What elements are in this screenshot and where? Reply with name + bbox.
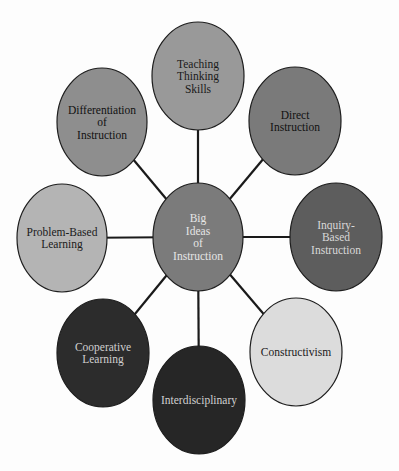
node-label: Learning <box>82 353 124 366</box>
node-label: Interdisciplinary <box>161 394 237 407</box>
concept-map-diagram: TeachingThinkingSkillsDirectInstructionI… <box>0 0 399 471</box>
node-problem-based-learning: Problem-BasedLearning <box>17 184 107 292</box>
node-label: Big <box>190 212 207 225</box>
center-node-big-ideas: BigIdeasofInstruction <box>153 183 243 291</box>
node-constructivism: Constructivism <box>250 298 342 406</box>
node-label: Instruction <box>173 250 223 262</box>
node-label: Inquiry- <box>317 219 355 232</box>
node-label: Constructivism <box>261 346 331 358</box>
node-label: Teaching <box>177 58 219 71</box>
node-inquiry-based-instruction: Inquiry-BasedInstruction <box>290 183 382 291</box>
node-teaching-thinking-skills: TeachingThinkingSkills <box>152 22 244 130</box>
node-label: Direct <box>281 109 311 121</box>
node-label: Cooperative <box>75 341 131 354</box>
node-direct-instruction: DirectInstruction <box>249 67 341 175</box>
node-label: Instruction <box>77 129 127 141</box>
node-label: of <box>193 237 203 249</box>
node-label: Skills <box>185 83 212 95</box>
node-label: Ideas <box>186 225 211 237</box>
node-label: of <box>97 116 107 128</box>
node-label: Differentiation <box>68 104 136 116</box>
node-label: Thinking <box>177 70 219 83</box>
node-interdisciplinary: Interdisciplinary <box>153 346 245 454</box>
concept-nodes: TeachingThinkingSkillsDirectInstructionI… <box>17 22 382 454</box>
node-cooperative-learning: CooperativeLearning <box>57 299 149 407</box>
node-label: Instruction <box>270 121 320 133</box>
node-label: Instruction <box>311 244 361 256</box>
node-label: Based <box>322 231 350 243</box>
node-label: Problem-Based <box>27 226 98 238</box>
node-label: Learning <box>41 238 83 251</box>
node-differentiation-of-instruction: DifferentiationofInstruction <box>57 68 147 176</box>
